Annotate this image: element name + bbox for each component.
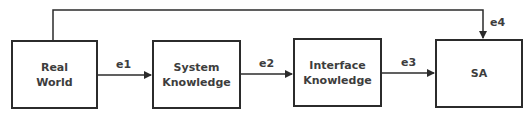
node-label-line: Interface [303,58,372,73]
edge-e4-arrow [53,10,483,40]
edge-label-e3: e3 [401,57,416,69]
edge-label-e4: e4 [490,17,505,29]
node-label-line: Knowledge [303,73,372,88]
node-label-line: System [162,60,231,75]
edge-label-e2: e2 [259,58,274,70]
edge-label-e1: e1 [116,59,131,71]
node-sa: SA [435,39,523,108]
node-label-line: Knowledge [162,75,231,90]
node-label-line: World [36,75,72,90]
node-label-line: SA [471,66,487,81]
node-system-knowledge: System Knowledge [152,40,241,109]
node-label-line: Real [36,60,72,75]
node-interface-knowledge: Interface Knowledge [293,38,382,107]
node-real-world: Real World [11,40,98,109]
